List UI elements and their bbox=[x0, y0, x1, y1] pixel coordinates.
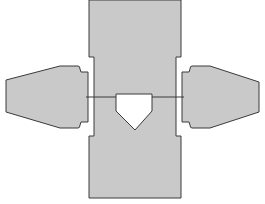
home-plate-diagram bbox=[0, 0, 265, 204]
diagram-canvas bbox=[0, 0, 265, 204]
left-batters-box bbox=[6, 66, 88, 128]
right-batters-box bbox=[182, 66, 259, 128]
